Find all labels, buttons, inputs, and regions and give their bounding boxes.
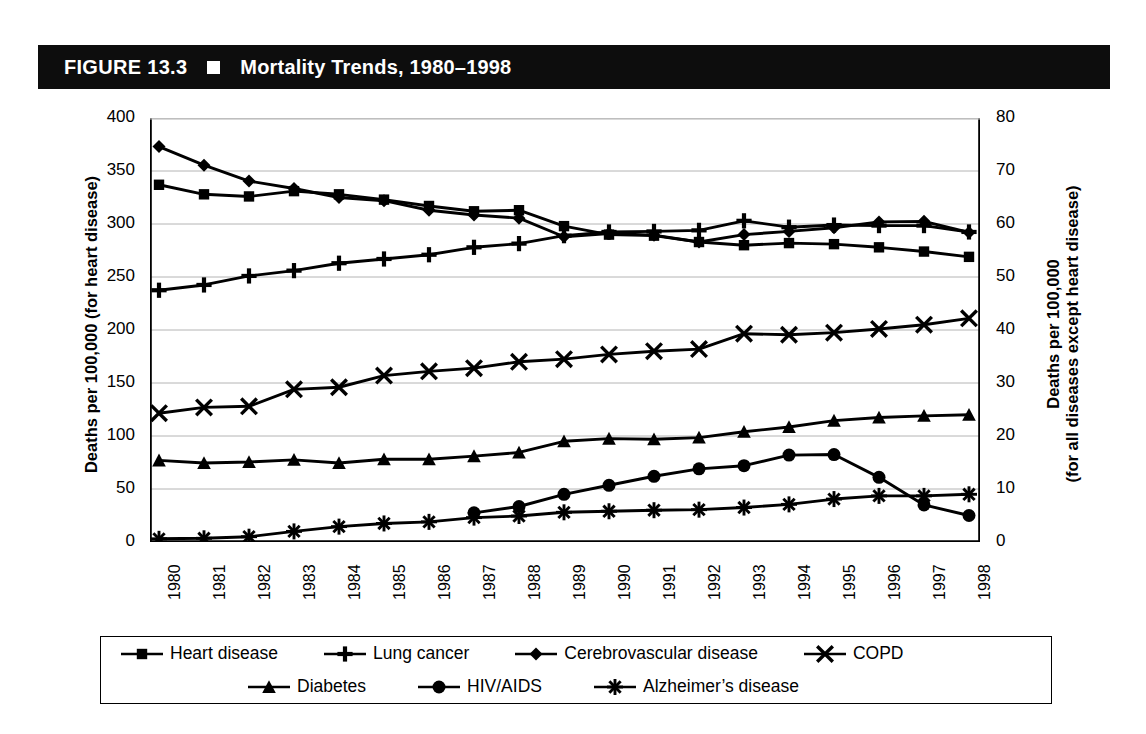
y-axis-right-tick-label: 70 bbox=[996, 160, 1015, 180]
y-axis-right-tick-label: 50 bbox=[996, 266, 1015, 286]
y-axis-left-tick-label: 250 bbox=[35, 266, 135, 286]
y-axis-left-tick-label: 350 bbox=[35, 160, 135, 180]
square-marker-icon bbox=[119, 643, 165, 665]
x-axis-tick-label: 1982 bbox=[256, 564, 274, 600]
cross-marker-icon bbox=[802, 643, 848, 665]
figure-title-text: Mortality Trends, 1980–1998 bbox=[240, 56, 511, 79]
x-axis-tick-label: 1986 bbox=[436, 564, 454, 600]
circle-marker-icon bbox=[416, 676, 462, 698]
black-square-icon bbox=[207, 61, 220, 74]
gridlines bbox=[150, 118, 980, 489]
x-axis-tick-label: 1995 bbox=[841, 564, 859, 600]
diamond-marker-icon bbox=[513, 643, 559, 665]
x-axis-tick-label: 1998 bbox=[976, 564, 994, 600]
triangle-marker-icon bbox=[246, 676, 292, 698]
x-axis-tick-label: 1980 bbox=[166, 564, 184, 600]
series-copd bbox=[151, 311, 977, 421]
x-axis-tick-label: 1985 bbox=[391, 564, 409, 600]
legend-item[interactable]: Diabetes bbox=[246, 676, 366, 698]
y-axis-right-tick-label: 0 bbox=[996, 531, 1005, 551]
x-axis-tick-label: 1989 bbox=[571, 564, 589, 600]
chart-plot-area bbox=[150, 118, 980, 542]
x-axis-tick-label: 1987 bbox=[481, 564, 499, 600]
legend-row: DiabetesHIV/AIDSAlzheimer’s disease bbox=[101, 670, 1051, 703]
mortality-trends-line-chart bbox=[150, 118, 980, 542]
legend-item[interactable]: Alzheimer’s disease bbox=[592, 676, 799, 698]
figure-title-bar: FIGURE 13.3 Mortality Trends, 1980–1998 bbox=[38, 45, 1110, 89]
y-axis-right-tick-label: 20 bbox=[996, 425, 1015, 445]
y-axis-right-tick-label: 10 bbox=[996, 478, 1015, 498]
y-axis-left-tick-label: 100 bbox=[35, 425, 135, 445]
legend-item[interactable]: Cerebrovascular disease bbox=[513, 643, 758, 665]
x-axis-tick-label: 1996 bbox=[886, 564, 904, 600]
legend-item[interactable]: Heart disease bbox=[119, 643, 278, 665]
plus-marker-icon bbox=[322, 643, 368, 665]
y-axis-left-tick-label: 150 bbox=[35, 372, 135, 392]
y-axis-left-tick-label: 400 bbox=[35, 107, 135, 127]
x-axis-tick-label: 1994 bbox=[796, 564, 814, 600]
x-axis-tick-label: 1983 bbox=[301, 564, 319, 600]
y-axis-right-title: Deaths per 100,000 (for all diseases exc… bbox=[1044, 124, 1082, 544]
data-series-group bbox=[151, 140, 977, 542]
y-axis-left-tick-label: 0 bbox=[35, 531, 135, 551]
y-axis-left-tick-label: 300 bbox=[35, 213, 135, 233]
y-axis-right-tick-label: 80 bbox=[996, 107, 1015, 127]
series-hiv-aids bbox=[468, 448, 976, 522]
legend-item-label: Diabetes bbox=[297, 676, 366, 697]
legend-item-label: Alzheimer’s disease bbox=[643, 676, 799, 697]
x-axis-tick-label: 1992 bbox=[706, 564, 724, 600]
legend-item-label: Lung cancer bbox=[373, 643, 469, 664]
series-diabetes bbox=[152, 408, 976, 469]
figure-number-label: FIGURE 13.3 bbox=[64, 56, 187, 79]
x-axis-tick-label: 1984 bbox=[346, 564, 364, 600]
legend-item-label: Heart disease bbox=[170, 643, 278, 664]
figure-container: FIGURE 13.3 Mortality Trends, 1980–1998 … bbox=[0, 0, 1146, 734]
y-axis-right-title-line2: (for all diseases except heart disease) bbox=[1063, 124, 1082, 544]
legend-item-label: Cerebrovascular disease bbox=[564, 643, 758, 664]
x-axis-tick-label: 1988 bbox=[526, 564, 544, 600]
chart-legend: Heart diseaseLung cancerCerebrovascular … bbox=[100, 636, 1052, 704]
x-axis-tick-label: 1991 bbox=[661, 564, 679, 600]
legend-row: Heart diseaseLung cancerCerebrovascular … bbox=[101, 637, 1051, 670]
y-axis-right-tick-label: 60 bbox=[996, 213, 1015, 233]
y-axis-left-tick-label: 200 bbox=[35, 319, 135, 339]
legend-item[interactable]: COPD bbox=[802, 643, 904, 665]
x-axis-tick-label: 1993 bbox=[751, 564, 769, 600]
series-heart-disease bbox=[154, 180, 974, 262]
y-axis-right-tick-label: 30 bbox=[996, 372, 1015, 392]
legend-item-label: HIV/AIDS bbox=[467, 676, 542, 697]
legend-item[interactable]: Lung cancer bbox=[322, 643, 469, 665]
x-axis-tick-label: 1997 bbox=[931, 564, 949, 600]
x-axis-tick-label: 1981 bbox=[211, 564, 229, 600]
y-axis-right-title-line1: Deaths per 100,000 bbox=[1044, 124, 1063, 544]
y-axis-left-tick-label: 50 bbox=[35, 478, 135, 498]
legend-item[interactable]: HIV/AIDS bbox=[416, 676, 542, 698]
y-axis-right-tick-label: 40 bbox=[996, 319, 1015, 339]
asterisk-marker-icon bbox=[592, 676, 638, 698]
legend-item-label: COPD bbox=[853, 643, 904, 664]
x-axis-tick-label: 1990 bbox=[616, 564, 634, 600]
